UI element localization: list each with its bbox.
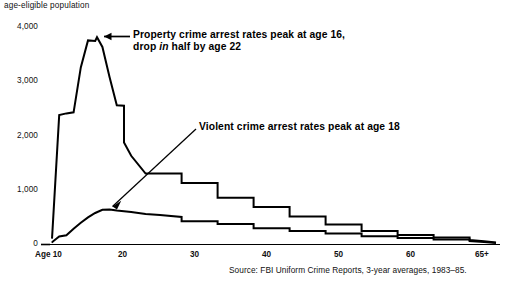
property-annotation: Property crime arrest rates peak at age … — [133, 29, 345, 54]
violent-annotation-arrow — [113, 129, 197, 210]
crime-arrest-rate-chart: age-eligible population 4,000 3,000 2,00… — [0, 0, 510, 287]
x-axis-tick-65plus: 65+ — [475, 250, 489, 259]
property-annotation-arrow — [104, 33, 130, 40]
x-axis-tick-50: 50 — [334, 250, 343, 259]
property-crime-line — [52, 37, 496, 242]
x-axis-tick-30: 30 — [190, 250, 199, 259]
x-axis-tick-60: 60 — [406, 250, 415, 259]
violent-annotation: Violent crime arrest rates peak at age 1… — [199, 121, 400, 133]
violent-crime-line — [52, 210, 496, 243]
property-annotation-line2: drop in half by age 22 — [133, 41, 345, 53]
property-annotation-line2-before: drop — [133, 41, 159, 52]
source-note: Source: FBI Uniform Crime Reports, 3-yea… — [229, 265, 467, 275]
x-axis-tick-40: 40 — [262, 250, 271, 259]
property-annotation-line2-after: half by age 22 — [169, 41, 241, 52]
property-annotation-line1: Property crime arrest rates peak at age … — [133, 29, 345, 41]
x-axis-tick-age10: Age 10 — [35, 250, 62, 259]
x-axis-tick-20: 20 — [118, 250, 127, 259]
property-annotation-line2-italic: in — [159, 41, 168, 52]
